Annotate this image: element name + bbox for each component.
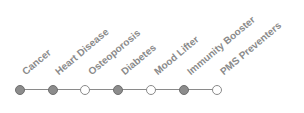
timeline-node-diabetes xyxy=(113,85,123,95)
timeline-label-cancer: Cancer xyxy=(20,47,53,77)
timeline-label-pms-preventers: PMS Preventers xyxy=(218,20,283,77)
timeline-node-immunity-booster xyxy=(179,85,189,95)
timeline-node-pms-preventers xyxy=(212,85,222,95)
timeline-node-osteoporosis xyxy=(80,85,90,95)
timeline-node-mood-lifter xyxy=(146,85,156,95)
timeline-node-cancer xyxy=(15,85,25,95)
timeline-node-heart-disease xyxy=(48,85,58,95)
